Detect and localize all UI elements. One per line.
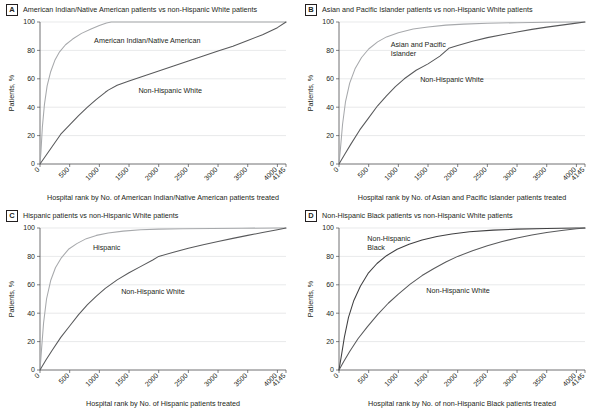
y-tick-label: 40 [27, 104, 35, 111]
x-tick-label: 2500 [173, 372, 189, 388]
x-tick-label: 1500 [114, 372, 130, 388]
x-tick-label: 1500 [413, 372, 429, 388]
x-tick-label: 1000 [84, 166, 100, 182]
x-tick-label: 500 [57, 166, 70, 179]
y-axis-title: Patients, % [7, 280, 16, 317]
minority-curve [339, 22, 585, 164]
x-tick-label: 1500 [413, 166, 429, 182]
x-tick-label: 2000 [442, 166, 458, 182]
panel-d-svg: 020406080100Patients, %05001000150020002… [303, 222, 594, 412]
x-tick-label: 500 [356, 372, 369, 385]
minority-series-label: Non-Hispanic [367, 234, 411, 243]
x-tick-label: 3000 [502, 372, 518, 388]
panel-c-title: Hispanic patients vs non-Hispanic White … [23, 212, 178, 219]
y-tick-label: 80 [27, 47, 35, 54]
minority-series-label-line2: Islander [391, 49, 417, 58]
x-axis-title: Hospital rank by No. of Asian and Pacifi… [358, 193, 567, 202]
x-tick-label: 1000 [383, 372, 399, 388]
white-series-label: Non-Hispanic White [121, 287, 185, 296]
panel-c-header: C Hispanic patients vs non-Hispanic Whit… [6, 209, 295, 222]
panel-c-plot: 020406080100Patients, %05001000150020002… [4, 222, 295, 412]
panel-c: C Hispanic patients vs non-Hispanic Whit… [0, 206, 299, 412]
y-tick-label: 100 [23, 224, 35, 231]
y-tick-label: 100 [322, 224, 334, 231]
y-tick-label: 60 [326, 75, 334, 82]
minority-series-label-line2: Black [367, 243, 385, 252]
y-tick-label: 60 [27, 281, 35, 288]
panel-d-title: Non-Hispanic Black patients vs non-Hispa… [322, 212, 513, 219]
white-series-label: Non-Hispanic White [420, 75, 484, 84]
panel-c-svg: 020406080100Patients, %05001000150020002… [4, 222, 295, 412]
y-tick-label: 40 [27, 310, 35, 317]
panel-d-letter: D [305, 210, 317, 222]
panel-d: D Non-Hispanic Black patients vs non-His… [299, 206, 598, 412]
x-tick-label: 2000 [143, 166, 159, 182]
x-tick-label: 1500 [114, 166, 130, 182]
x-tick-label: 3500 [531, 166, 547, 182]
y-tick-label: 20 [27, 132, 35, 139]
x-tick-label: 1000 [84, 372, 100, 388]
y-tick-label: 20 [326, 338, 334, 345]
y-tick-label: 80 [326, 47, 334, 54]
x-tick-label: 1000 [383, 166, 399, 182]
x-tick-label: 500 [356, 166, 369, 179]
panel-d-plot: 020406080100Patients, %05001000150020002… [303, 222, 594, 412]
x-axis-title: Hospital rank by No. of American Indian/… [47, 193, 279, 202]
minority-series-label: Hispanic [93, 243, 121, 252]
y-tick-label: 40 [326, 310, 334, 317]
y-axis-title: Patients, % [306, 74, 315, 111]
y-axis-title: Patients, % [306, 280, 315, 317]
white-series-label: Non-Hispanic White [138, 86, 202, 95]
panel-b-title: Asian and Pacific Islander patients vs n… [322, 6, 533, 13]
x-axis-title: Hospital rank by No. of Hispanic patient… [86, 399, 240, 408]
panel-b-plot: 020406080100Patients, %05001000150020002… [303, 16, 594, 206]
x-tick-label: 2500 [472, 166, 488, 182]
panel-b-letter: B [305, 4, 317, 16]
x-tick-label: 2500 [173, 166, 189, 182]
x-tick-label: 3500 [232, 372, 248, 388]
y-tick-label: 80 [27, 253, 35, 260]
x-tick-label: 2000 [143, 372, 159, 388]
y-tick-label: 60 [27, 75, 35, 82]
y-tick-label: 100 [322, 18, 334, 25]
panel-c-letter: C [6, 210, 18, 222]
panel-b-svg: 020406080100Patients, %05001000150020002… [303, 16, 594, 206]
panel-a-svg: 020406080100Patients, %05001000150020002… [4, 16, 295, 206]
panel-a-title: American Indian/Native American patients… [23, 6, 257, 13]
x-tick-label: 3500 [531, 372, 547, 388]
x-tick-label: 0 [33, 372, 41, 380]
x-tick-label: 2000 [442, 372, 458, 388]
y-tick-label: 20 [27, 338, 35, 345]
figure-panel-grid: A American Indian/Native American patien… [0, 0, 598, 412]
y-axis-title: Patients, % [7, 74, 16, 111]
panel-b-header: B Asian and Pacific Islander patients vs… [305, 3, 594, 16]
x-tick-label: 3500 [232, 166, 248, 182]
x-tick-label: 0 [33, 166, 41, 174]
panel-a-plot: 020406080100Patients, %05001000150020002… [4, 16, 295, 206]
minority-curve [40, 228, 286, 370]
y-tick-label: 40 [326, 104, 334, 111]
y-tick-label: 60 [326, 281, 334, 288]
minority-series-label: American Indian/Native American [94, 36, 200, 45]
y-tick-label: 20 [326, 132, 334, 139]
minority-series-label: Asian and Pacific [391, 40, 447, 49]
x-axis-title: Hospital rank by No. of non-Hispanic Bla… [368, 399, 556, 408]
x-tick-label: 3000 [203, 372, 219, 388]
panel-a: A American Indian/Native American patien… [0, 0, 299, 206]
x-tick-label: 0 [332, 372, 340, 380]
panel-a-letter: A [6, 4, 18, 16]
white-series-label: Non-Hispanic White [426, 286, 490, 295]
x-tick-label: 3000 [502, 166, 518, 182]
panel-a-header: A American Indian/Native American patien… [6, 3, 295, 16]
x-tick-label: 0 [332, 166, 340, 174]
y-tick-label: 80 [326, 253, 334, 260]
y-tick-label: 100 [23, 18, 35, 25]
white-curve [40, 228, 286, 370]
panel-b: B Asian and Pacific Islander patients vs… [299, 0, 598, 206]
x-tick-label: 3000 [203, 166, 219, 182]
x-tick-label: 2500 [472, 372, 488, 388]
x-tick-label: 500 [57, 372, 70, 385]
panel-d-header: D Non-Hispanic Black patients vs non-His… [305, 209, 594, 222]
